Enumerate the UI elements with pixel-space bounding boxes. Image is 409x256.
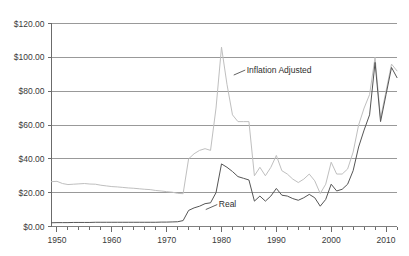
inflation-adjusted-label: Inflation Adjusted: [247, 65, 312, 75]
y-axis-labels-group: $120.00$100.00$80.00$60.00$40.00$20.00$0…: [14, 19, 45, 232]
real-label-leader-line: [206, 205, 218, 210]
y-axis-tick-label: $0.00: [23, 222, 45, 232]
data-series-group: [52, 47, 398, 223]
y-axis-tick-label: $100.00: [14, 52, 45, 62]
x-axis-ticks-group: [57, 227, 397, 232]
chart-canvas: $120.00$100.00$80.00$60.00$40.00$20.00$0…: [0, 0, 409, 256]
x-axis-labels-group: 1950196019701980199020002010: [48, 235, 396, 245]
x-axis-tick-label: 1990: [267, 235, 286, 245]
y-axis-ticks-group: [48, 24, 52, 227]
series-line-inflation-adjusted: [52, 47, 398, 194]
x-axis-tick-label: 1960: [102, 235, 121, 245]
series-annotations-group: Inflation AdjustedReal: [206, 65, 312, 210]
y-axis-tick-label: $120.00: [14, 19, 45, 29]
real-label: Real: [219, 199, 237, 209]
x-axis-tick-label: 1980: [212, 235, 231, 245]
y-axis-tick-label: $40.00: [19, 154, 45, 164]
x-axis-tick-label: 2010: [377, 235, 396, 245]
y-axis-tick-label: $60.00: [19, 120, 45, 130]
inflation-adjusted-label-leader-line: [234, 70, 246, 75]
x-axis-tick-label: 2000: [322, 235, 341, 245]
x-axis-tick-label: 1970: [157, 235, 176, 245]
y-axis-tick-label: $80.00: [19, 86, 45, 96]
x-axis-tick-label: 1950: [48, 235, 67, 245]
price-history-line-chart: $120.00$100.00$80.00$60.00$40.00$20.00$0…: [0, 0, 409, 256]
gridlines-group: [52, 24, 398, 227]
y-axis-tick-label: $20.00: [19, 188, 45, 198]
